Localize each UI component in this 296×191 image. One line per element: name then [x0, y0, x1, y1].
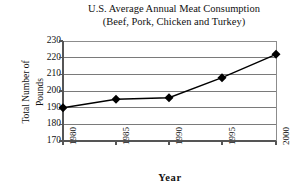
- x-tick-label-1990: 1990: [174, 115, 185, 145]
- x-tick-label-2000: 2000: [281, 115, 292, 145]
- x-axis-tick-labels: 1980 1985 1990 1995 2000: [0, 0, 296, 191]
- x-tick-label-1985: 1985: [121, 115, 132, 145]
- x-tick-label-1995: 1995: [227, 115, 238, 145]
- meat-consumption-line-chart: U.S. Average Annual Meat Consumption (Be…: [0, 0, 296, 191]
- x-tick-label-1980: 1980: [68, 115, 79, 145]
- x-axis-title: Year: [63, 172, 277, 183]
